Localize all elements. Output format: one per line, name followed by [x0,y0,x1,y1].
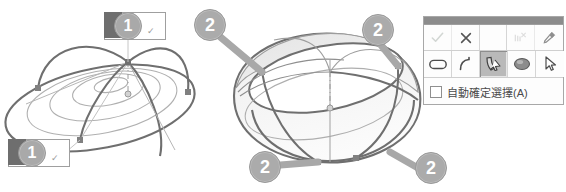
toolbar-drag-grip[interactable] [424,17,563,25]
illustration-stage: ✓ 1 ✓ 1 2 2 2 2 [0,0,566,192]
toolbar-row-actions [424,25,563,51]
callout-1-top: 1 [114,12,142,40]
select-tool-button[interactable] [536,51,564,77]
callout-2-topleft-label: 2 [205,16,215,34]
right-surface-shaded [234,32,420,165]
undo-curve-icon [513,30,528,45]
curve-tool-button[interactable] [452,51,480,77]
curve-icon [457,55,475,73]
blob-tool-button[interactable] [508,51,536,77]
toolbar-row-tools [424,51,563,78]
auto-confirm-label: 自動確定選擇(A) [447,84,528,100]
legend-check-top: ✓ [147,27,155,36]
sweep-tool-button[interactable] [480,51,508,77]
cancel-button[interactable] [452,25,480,50]
legend-check-bottom: ✓ [51,154,59,163]
filled-ellipse-icon [512,56,532,72]
toolbar-gap [480,25,507,50]
auto-confirm-checkbox[interactable] [430,86,442,98]
check-icon [430,30,445,45]
callout-2-bottomleft-label: 2 [260,158,270,176]
pin-button[interactable] [535,25,563,50]
callout-2-bottomright: 2 [415,152,447,184]
surface-edit-toolbar: 自動確定選擇(A) [423,16,564,105]
callout-2-topright: 2 [362,14,394,46]
callout-2-bottomleft: 2 [249,151,281,183]
callout-1-bottom: 1 [18,139,46,167]
rounded-rect-tool-button[interactable] [424,51,452,77]
callout-2-bottomright-label: 2 [426,159,436,177]
accept-button[interactable] [424,25,452,50]
rounded-rectangle-icon [428,56,448,72]
sweep-surface-icon [484,55,504,73]
auto-confirm-row[interactable]: 自動確定選擇(A) [424,78,563,106]
callout-1-bottom-label: 1 [28,145,37,161]
undo-button[interactable] [507,25,535,50]
arrow-cursor-icon [542,55,558,73]
callout-1-top-label: 1 [124,18,133,34]
close-icon [459,31,473,45]
callout-2-topleft: 2 [194,9,226,41]
callout-2-topright-label: 2 [373,21,383,39]
pin-icon [542,30,557,45]
